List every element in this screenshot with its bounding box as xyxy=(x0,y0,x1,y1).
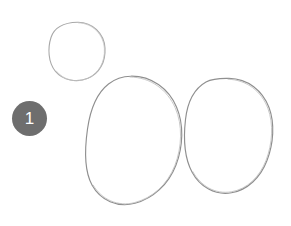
left-large-oval-shape-overdraw xyxy=(93,77,180,204)
annotation-marker-1[interactable]: 1 xyxy=(12,101,47,136)
right-large-oval-shape-overdraw xyxy=(193,79,272,192)
annotation-marker-1-label: 1 xyxy=(25,110,34,127)
sketch-canvas: 1 xyxy=(0,0,291,226)
right-large-oval-shape xyxy=(185,78,273,193)
